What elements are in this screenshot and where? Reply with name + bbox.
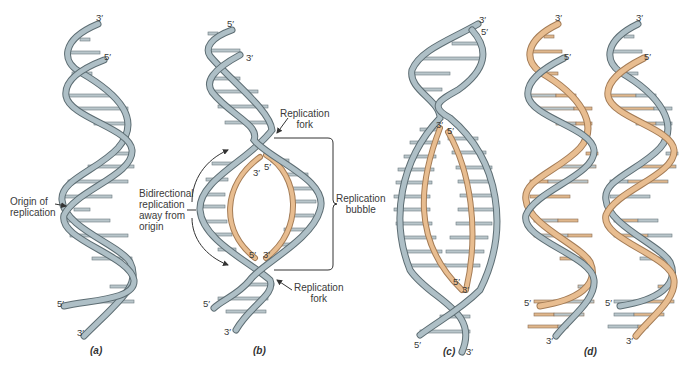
panel-c-bubble-top-left: 3′ [436,120,443,130]
replication-fork-top-label: Replication fork [280,108,329,130]
panel-d-right-end-mid: 5′ [644,52,651,62]
panel-d-left-end-top: 3′ [555,13,562,23]
panel-c-bubble-top-right: 5′ [447,126,454,136]
dna-replication-figure: 3′ 5′ 5′ 3′ Origin of replication (a) 5′… [0,0,691,370]
panel-b-end-bottom-left: 5′ [203,299,210,309]
panel-b-bubble-top-left: 3′ [253,168,260,178]
panel-a-end-top-left: 3′ [96,13,103,23]
panel-d-left-helix [526,24,598,336]
panel-c-label: (c) [443,346,455,357]
panel-c-end-top-left: 3′ [479,15,486,25]
panel-d-right-helix [606,24,678,336]
panel-a-end-bottom-right: 3′ [77,328,84,338]
panel-b-end-top-right: 3′ [246,53,253,63]
panel-c-bubble-bottom-left: 5′ [453,277,460,287]
panel-d-label: (d) [584,346,597,357]
panel-b-end-bottom-right: 3′ [224,327,231,337]
panel-b-bubble-bottom-right: 3′ [263,250,270,260]
panel-a-helix [62,24,134,336]
panel-b-bubble-bottom-left: 5′ [249,250,256,260]
panel-a-end-bottom-left: 5′ [57,299,64,309]
origin-of-replication-label: Origin of replication [10,196,56,218]
panel-d-right-end-top: 3′ [636,13,643,23]
panel-c-end-bottom-left: 5′ [414,340,421,350]
panel-d-left-end-bottom-5: 5′ [524,298,531,308]
panel-d-right-end-bottom-5: 5′ [605,298,612,308]
panel-c-helix [394,24,497,352]
replication-bubble-label: Replication bubble [336,193,385,215]
panel-b-label: (b) [253,345,266,356]
panel-d-left-end-mid: 5′ [564,52,571,62]
panel-d-right-end-bottom-3: 3′ [626,336,633,346]
replication-fork-bottom-label: Replication fork [294,282,343,304]
fork-bottom-arrow [277,280,292,290]
bidirectional-replication-label: Bidirectional replication away from orig… [139,188,193,232]
panel-d-left-end-bottom-3: 3′ [546,336,553,346]
panel-c-end-bottom-right: 3′ [466,347,473,357]
panel-a-label: (a) [90,345,102,356]
panel-c-bubble-bottom-right: 3′ [462,285,469,295]
panel-a-end-top-right: 5′ [104,52,111,62]
panel-b-end-top-left: 5′ [227,19,234,29]
panel-b-bubble-top-right: 5′ [264,162,271,172]
panel-c-end-top-right: 5′ [481,27,488,37]
